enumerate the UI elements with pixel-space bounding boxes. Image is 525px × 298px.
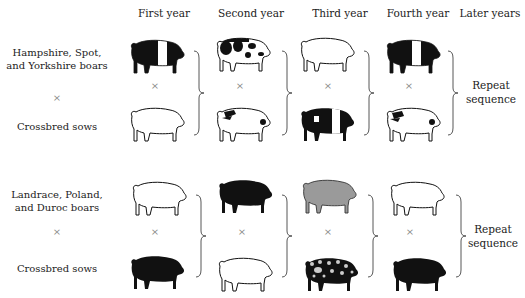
pig-icon-spotted-sow (214, 104, 272, 144)
cross-symbol: × (51, 92, 63, 103)
pig-icon-gray-boar (300, 176, 358, 216)
pig-icon-white-sow (216, 254, 274, 294)
boar-label-system-2: Landrace, Poland, and Duroc boars (2, 188, 112, 214)
brace-icon (367, 194, 379, 278)
pig-icon-white-sow (128, 104, 186, 144)
pig-icon-spotted-black-sow (302, 254, 360, 294)
cross-symbol: × (149, 80, 161, 91)
cross-symbol: × (404, 226, 416, 237)
sow-label-system-2: Crossbred sows (2, 262, 112, 275)
cross-symbol: × (234, 80, 246, 91)
brace-icon (281, 50, 293, 136)
boar-label-system-1: Hampshire, Spot, and Yorkshire boars (2, 46, 112, 72)
repeat-label-line: sequence (458, 236, 525, 250)
pig-icon-black-boar (216, 176, 274, 216)
repeat-sequence-label-system-1: Repeat sequence (456, 78, 525, 106)
pig-icon-hampshire-boar (384, 36, 442, 76)
pig-icon-spotted-boar (214, 34, 272, 74)
pig-icon-hampshire-sow (298, 104, 356, 144)
brace-icon (195, 194, 207, 278)
repeat-label-line: sequence (456, 92, 525, 106)
header-second-year: Second year (211, 7, 291, 19)
header-third-year: Third year (300, 7, 380, 19)
brace-icon (363, 50, 375, 136)
cross-symbol: × (322, 80, 334, 91)
header-first-year: First year (124, 7, 204, 19)
pig-icon-spotted-sow (384, 104, 442, 144)
pig-icon-white-boar (388, 178, 446, 218)
brace-icon (281, 194, 293, 278)
cross-symbol: × (149, 226, 161, 237)
header-fourth-year: Fourth year (378, 7, 458, 19)
pig-icon-black-sow (390, 254, 448, 294)
cross-symbol: × (51, 226, 63, 237)
repeat-label-line: Repeat (456, 78, 525, 92)
sow-label-system-1: Crossbred sows (2, 120, 112, 133)
pig-icon-black-sow (128, 252, 186, 292)
brace-icon (193, 50, 205, 136)
repeat-label-line: Repeat (458, 222, 525, 236)
pig-icon-hampshire-boar (128, 36, 186, 76)
cross-symbol: × (236, 226, 248, 237)
pig-icon-white-boar (298, 34, 356, 74)
cross-symbol: × (403, 80, 415, 91)
cross-symbol: × (322, 226, 334, 237)
pig-icon-white-boar (130, 178, 188, 218)
repeat-sequence-label-system-2: Repeat sequence (458, 222, 525, 250)
header-later-years: Later years (450, 7, 525, 19)
